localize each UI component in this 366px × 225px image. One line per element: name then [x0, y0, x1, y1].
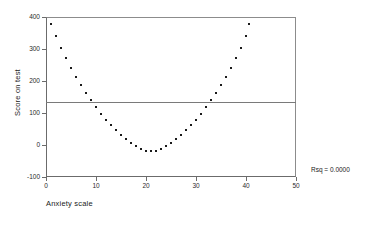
scatter-plot-figure: -1000100200300400 01020304050 Score on t…: [0, 0, 366, 225]
x-tick-mark: [296, 177, 297, 181]
data-point: [95, 106, 97, 108]
data-point: [195, 119, 197, 121]
data-point: [245, 35, 247, 37]
x-tick-label: 0: [31, 182, 61, 190]
data-point: [90, 99, 92, 101]
x-tick-mark: [46, 177, 47, 181]
data-point: [240, 47, 242, 49]
data-point: [230, 67, 232, 69]
data-point: [220, 84, 222, 86]
y-axis-title: Score on test: [13, 38, 22, 148]
data-point: [75, 76, 77, 78]
data-point: [55, 35, 57, 37]
data-point: [170, 142, 172, 144]
rsq-annotation: Rsq = 0.0000: [311, 166, 350, 173]
data-point: [215, 92, 217, 94]
x-tick-mark: [146, 177, 147, 181]
data-point: [120, 134, 122, 136]
y-tick-mark: [42, 113, 46, 114]
x-axis-title: Anxiety scale: [46, 199, 246, 208]
data-point: [225, 76, 227, 78]
data-point: [65, 57, 67, 59]
data-point: [180, 134, 182, 136]
y-tick-mark: [42, 81, 46, 82]
data-point: [140, 148, 142, 150]
data-point: [60, 47, 62, 49]
x-tick-label: 30: [181, 182, 211, 190]
data-point: [110, 124, 112, 126]
data-point: [70, 67, 72, 69]
data-point: [150, 150, 152, 152]
y-tick-label: -100: [0, 173, 40, 180]
x-tick-mark: [196, 177, 197, 181]
data-point: [155, 150, 157, 152]
plot-area-frame: [46, 17, 296, 177]
data-point: [190, 124, 192, 126]
reference-line: [46, 102, 296, 103]
data-point: [80, 84, 82, 86]
y-tick-mark: [42, 49, 46, 50]
data-point: [205, 106, 207, 108]
data-point: [105, 119, 107, 121]
data-point: [135, 145, 137, 147]
data-point: [165, 145, 167, 147]
x-tick-label: 20: [131, 182, 161, 190]
y-tick-mark: [42, 145, 46, 146]
data-point: [50, 23, 52, 25]
x-tick-label: 50: [281, 182, 311, 190]
y-tick-label: 400: [0, 13, 40, 20]
data-point: [100, 113, 102, 115]
data-point: [235, 57, 237, 59]
data-point: [248, 23, 250, 25]
x-tick-label: 10: [81, 182, 111, 190]
y-tick-mark: [42, 17, 46, 18]
data-point: [160, 148, 162, 150]
data-point: [115, 129, 117, 131]
data-point: [85, 92, 87, 94]
x-tick-label: 40: [231, 182, 261, 190]
data-point: [200, 113, 202, 115]
data-point: [145, 150, 147, 152]
data-point: [185, 129, 187, 131]
data-point: [130, 142, 132, 144]
x-tick-mark: [246, 177, 247, 181]
data-point: [125, 138, 127, 140]
data-point: [210, 99, 212, 101]
x-tick-mark: [96, 177, 97, 181]
data-point: [175, 138, 177, 140]
